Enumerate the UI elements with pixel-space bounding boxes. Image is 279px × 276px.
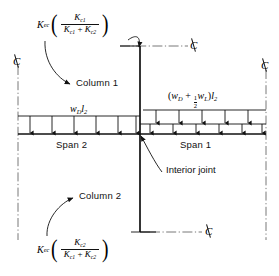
- half-fraction: 12: [194, 95, 197, 110]
- half-numerator: 1: [194, 95, 197, 102]
- span-2-load-group: [18, 116, 140, 133]
- column-1-stiffness-equation: Kec ( Kc1 Kc1 + Kc2 ): [37, 13, 111, 36]
- span-length-subscript: 2: [214, 95, 217, 102]
- bottom-centerline-mark: C: [205, 225, 217, 239]
- dead-load-symbol: w: [70, 103, 77, 114]
- fraction-denominator: Kc1 + Kc2: [61, 25, 99, 36]
- numerator-subscript: c2: [80, 242, 85, 248]
- top-centerline-mark: C: [190, 39, 202, 53]
- span-2-load-label: wDl2: [70, 103, 87, 115]
- interior-joint-leader: [141, 136, 162, 172]
- column-2-stiffness-equation: Kec ( Kc2 Kc1 + Kc2 ): [37, 238, 111, 261]
- k-ec-subscript: ec: [44, 246, 50, 253]
- stiffness-ratio-fraction: Kc2 Kc1 + Kc2: [61, 238, 99, 261]
- column-2-label: Column 2: [79, 191, 121, 201]
- diagram-canvas: [0, 0, 279, 276]
- k-ec-symbol: K: [37, 244, 44, 255]
- span-1-load-label: (wD + 12wL)l2: [168, 90, 217, 110]
- k-ec-symbol: K: [37, 19, 44, 30]
- column-1-label: Column 1: [76, 78, 118, 88]
- top-equation-leader: [128, 37, 139, 47]
- span-length-subscript: 2: [84, 108, 87, 115]
- column-1-leader: [45, 41, 70, 84]
- half-denominator: 2: [194, 103, 197, 110]
- right-centerline-mark: C: [261, 59, 273, 73]
- denominator-second-subscript: c2: [91, 254, 96, 260]
- figure-root: Kec ( Kc1 Kc1 + Kc2 ) Kec ( Kc2 Kc1 + Kc…: [0, 0, 279, 276]
- fraction-numerator: Kc2: [71, 238, 88, 249]
- span-2-label: Span 2: [56, 140, 87, 150]
- stiffness-ratio-fraction: Kc1 Kc1 + Kc2: [61, 13, 99, 36]
- close-paren: ): [102, 240, 108, 258]
- open-paren: (: [51, 15, 57, 33]
- open-paren: (: [51, 240, 57, 258]
- close-paren: ): [102, 15, 108, 33]
- interior-joint-label: Interior joint: [166, 165, 218, 176]
- fraction-numerator: Kc1: [71, 13, 88, 24]
- span-1-label: Span 1: [180, 140, 211, 150]
- fraction-denominator: Kc1 + Kc2: [61, 250, 99, 261]
- column-2-leader: [47, 198, 73, 236]
- span-1-lower-load-group: [140, 124, 266, 133]
- numerator-subscript: c1: [80, 17, 85, 23]
- denominator-second-subscript: c2: [91, 29, 96, 35]
- left-centerline-mark: C: [13, 55, 25, 69]
- span-1-upper-load-group: [143, 110, 266, 123]
- k-ec-subscript: ec: [44, 21, 50, 28]
- dead-load-symbol: w: [171, 90, 178, 101]
